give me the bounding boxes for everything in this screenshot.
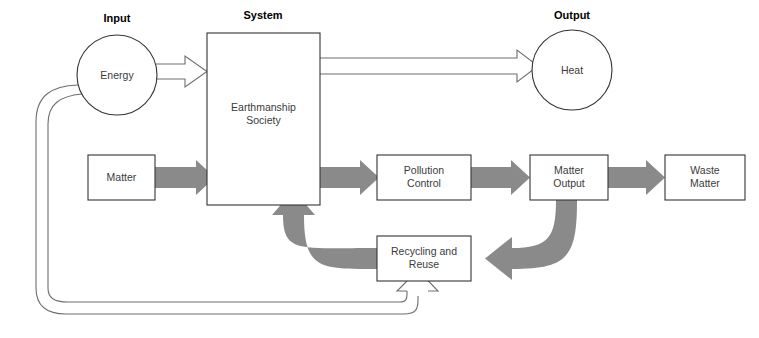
- node-shapes-layer: [0, 0, 759, 338]
- node-matter-output-box[interactable]: [530, 155, 608, 200]
- system-flow-diagram: Input System Output Energy Heat Earthman…: [0, 0, 759, 338]
- node-energy-circle[interactable]: [77, 35, 157, 115]
- node-system-box[interactable]: [207, 33, 320, 205]
- node-recycling-reuse-box[interactable]: [377, 236, 471, 281]
- node-waste-matter-box[interactable]: [665, 155, 745, 200]
- node-heat-circle[interactable]: [532, 30, 612, 110]
- node-matter-box[interactable]: [88, 155, 155, 200]
- node-pollution-control-box[interactable]: [377, 155, 471, 200]
